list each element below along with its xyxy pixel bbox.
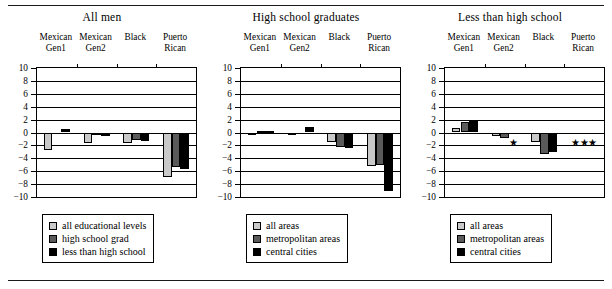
- bar: [327, 133, 336, 143]
- x-axis-tick-mark: [525, 64, 526, 68]
- x-axis-tick-mark: [281, 64, 282, 68]
- y-axis-tick-label: 4: [227, 102, 232, 111]
- figure-root: All menMexicanGen1MexicanGen2BlackPuerto…: [0, 0, 612, 289]
- y-axis-tick-label: −4: [18, 154, 28, 163]
- y-axis-tick-label: −10: [217, 193, 232, 202]
- bar: [549, 133, 558, 153]
- bar: [101, 133, 110, 136]
- x-axis-tick-mark: [77, 64, 78, 68]
- y-axis-tick-label: −8: [426, 180, 436, 189]
- bar: [452, 128, 461, 133]
- missing-data-star-icon: ★: [571, 138, 580, 148]
- legend: all educational levelshigh school gradle…: [42, 214, 154, 263]
- zero-line: [445, 133, 604, 134]
- x-axis-tick-mark: [360, 64, 361, 68]
- legend: all areasmetropolitan areascentral citie…: [450, 214, 552, 263]
- legend-item: less than high school: [49, 245, 146, 258]
- y-axis-tick-label: −6: [222, 167, 232, 176]
- legend-item: all educational levels: [49, 219, 146, 232]
- bar: [61, 129, 70, 132]
- bar: [123, 133, 132, 144]
- panel-container: All menMexicanGen1MexicanGen2BlackPuerto…: [0, 8, 612, 276]
- gridline: [445, 171, 604, 172]
- x-axis-tick-mark: [156, 64, 157, 68]
- panel-title: All men: [0, 11, 204, 23]
- bar: [305, 127, 314, 133]
- bar: [132, 133, 141, 141]
- gridline: [37, 81, 196, 82]
- category-label-line1: Puerto: [151, 32, 199, 43]
- gridline: [37, 107, 196, 108]
- legend-label: high school grad: [62, 233, 129, 244]
- category-label-line2: Rican: [151, 43, 199, 54]
- legend-swatch-icon: [253, 222, 261, 230]
- bar: [384, 133, 393, 192]
- legend-label: metropolitan areas: [266, 233, 340, 244]
- y-axis-tick-label: −4: [426, 154, 436, 163]
- bar: [500, 133, 509, 138]
- bar: [492, 133, 501, 137]
- panel-title: Less than high school: [408, 11, 612, 23]
- gridline: [37, 171, 196, 172]
- category-labels: MexicanGen1MexicanGen2BlackPuertoRican: [238, 32, 404, 64]
- bar: [376, 133, 385, 165]
- legend-label: central cities: [470, 246, 521, 257]
- bottom-divider-rule: [8, 280, 604, 281]
- panel-title: High school graduates: [204, 11, 408, 23]
- y-axis-tick-label: 8: [431, 76, 436, 85]
- top-divider-rule: [8, 5, 604, 6]
- gridline: [445, 184, 604, 185]
- y-axis-tick-label: −10: [421, 193, 436, 202]
- gridline: [37, 94, 196, 95]
- legend-swatch-icon: [253, 248, 261, 256]
- bar: [469, 120, 478, 132]
- missing-data-star-icon: ★: [588, 138, 597, 148]
- x-axis-tick-mark: [564, 64, 565, 68]
- legend-item: central cities: [253, 245, 340, 258]
- gridline: [241, 81, 400, 82]
- y-axis-tick-label: −6: [426, 167, 436, 176]
- bar: [180, 133, 189, 169]
- legend-swatch-icon: [457, 248, 465, 256]
- chart-panel: Less than high schoolMexicanGen1MexicanG…: [408, 8, 612, 276]
- category-label-line2: Gen2: [72, 43, 120, 54]
- legend-label: all areas: [470, 220, 503, 231]
- y-axis-tick-label: −2: [222, 141, 232, 150]
- y-axis-labels: 1086420−2−4−6−8−10: [204, 67, 236, 198]
- legend-label: all areas: [266, 220, 299, 231]
- bar: [92, 133, 101, 135]
- bar: [336, 133, 345, 147]
- y-axis-tick-label: 0: [227, 128, 232, 137]
- y-axis-tick-label: 6: [431, 89, 436, 98]
- bar: [288, 133, 297, 135]
- x-axis-tick-mark: [321, 64, 322, 68]
- bar: [540, 133, 549, 155]
- legend-swatch-icon: [49, 235, 57, 243]
- legend-item: metropolitan areas: [253, 232, 340, 245]
- y-axis-tick-label: 8: [227, 76, 232, 85]
- y-axis-tick-label: 0: [431, 128, 436, 137]
- y-axis-tick-label: 2: [23, 115, 28, 124]
- legend-item: high school grad: [49, 232, 146, 245]
- y-axis-tick-label: 2: [227, 115, 232, 124]
- y-axis-tick-label: 6: [227, 89, 232, 98]
- gridline: [445, 158, 604, 159]
- bar: [265, 131, 274, 133]
- legend: all areasmetropolitan areascentral citie…: [246, 214, 348, 263]
- y-axis-tick-label: 10: [427, 64, 436, 73]
- y-axis-tick-label: 6: [23, 89, 28, 98]
- missing-data-star-icon: ★: [509, 138, 518, 148]
- category-labels: MexicanGen1MexicanGen2BlackPuertoRican: [442, 32, 608, 64]
- legend-swatch-icon: [253, 235, 261, 243]
- bar: [367, 133, 376, 167]
- plot-area: ★★★★: [444, 67, 605, 198]
- legend-item: metropolitan areas: [457, 232, 544, 245]
- legend-item: central cities: [457, 245, 544, 258]
- y-axis-labels: 1086420−2−4−6−8−10: [0, 67, 32, 198]
- category-label: PuertoRican: [151, 32, 199, 54]
- y-axis-tick-label: 10: [223, 64, 232, 73]
- y-axis-tick-label: 4: [431, 102, 436, 111]
- y-axis-tick-label: 2: [431, 115, 436, 124]
- category-label-line2: Rican: [559, 43, 607, 54]
- category-label-line1: Puerto: [355, 32, 403, 43]
